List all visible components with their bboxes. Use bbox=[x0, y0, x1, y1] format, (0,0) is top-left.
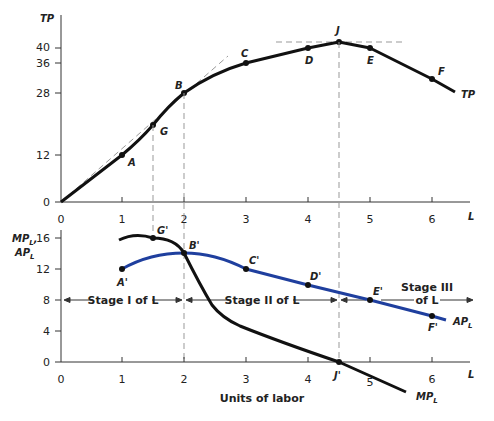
mp-x-tick-1: 1 bbox=[119, 373, 126, 386]
point-label-d-prime: D' bbox=[310, 271, 321, 282]
point-label-f: F bbox=[438, 66, 445, 77]
tp-curve bbox=[61, 42, 455, 202]
ap-curve bbox=[122, 253, 446, 320]
point-label-b: B bbox=[175, 80, 183, 91]
mp-axis-title-line1: MPL, bbox=[12, 233, 38, 247]
mp-y-tick-12: 12 bbox=[36, 263, 50, 276]
stage-3-label-line1: Stage III bbox=[401, 281, 453, 294]
tp-y-tick-36: 36 bbox=[36, 57, 50, 70]
tp-y-tick-28: 28 bbox=[36, 87, 50, 100]
point-label-e-prime: E' bbox=[373, 286, 383, 297]
x-axis-caption: Units of labor bbox=[220, 392, 305, 405]
tangent-ray bbox=[61, 56, 228, 202]
mp-curve-label: MPL bbox=[416, 391, 438, 405]
stage-3-label-line2: of L bbox=[415, 294, 438, 307]
mp-y-tick-8: 8 bbox=[43, 294, 50, 307]
mp-ap-panel: MPL, APL L 0 4 8 12 16 0 1 2 3 4 5 6 Uni bbox=[12, 225, 474, 405]
mp-x-ticks bbox=[122, 357, 432, 362]
mp-x-tick-0: 0 bbox=[58, 373, 65, 386]
point-label-g-prime: G' bbox=[157, 225, 168, 236]
tp-l-axis-title: L bbox=[468, 211, 474, 222]
mp-x-tick-4: 4 bbox=[305, 373, 312, 386]
point-label-a-prime: A' bbox=[116, 277, 128, 288]
mp-y-tick-4: 4 bbox=[43, 325, 50, 338]
point-label-j-prime: J' bbox=[332, 370, 341, 381]
point-label-e: E bbox=[367, 55, 374, 66]
tp-x-tick-4: 4 bbox=[305, 213, 312, 226]
mp-y-ticks bbox=[55, 238, 61, 362]
point-label-j: J bbox=[334, 25, 340, 36]
stage-1-label: Stage I of L bbox=[88, 294, 159, 307]
mp-curve bbox=[119, 235, 406, 392]
stage-2-label: Stage II of L bbox=[225, 294, 300, 307]
mp-x-tick-6: 6 bbox=[429, 373, 436, 386]
ap-curve-label: APL bbox=[452, 316, 473, 330]
tp-x-ticks bbox=[122, 197, 432, 202]
point-label-c: C bbox=[241, 48, 249, 59]
tp-x-tick-6: 6 bbox=[429, 213, 436, 226]
point-label-g: G bbox=[160, 126, 168, 137]
point-label-b-prime: B' bbox=[189, 240, 200, 251]
mp-axis-title-line2: APL bbox=[14, 247, 35, 261]
production-chart: TP L 0 12 28 36 40 0 1 2 3 4 5 6 bbox=[0, 0, 494, 421]
tp-y-tick-40: 40 bbox=[36, 41, 50, 54]
tp-y-tick-0: 0 bbox=[43, 196, 50, 209]
tp-panel: TP L 0 12 28 36 40 0 1 2 3 4 5 6 bbox=[36, 13, 476, 226]
mp-x-tick-2: 2 bbox=[181, 373, 188, 386]
mp-l-axis-title: L bbox=[468, 369, 474, 380]
point-label-f-prime: F' bbox=[428, 322, 438, 333]
tp-y-ticks bbox=[55, 48, 61, 202]
tp-x-tick-1: 1 bbox=[119, 213, 126, 226]
tp-x-tick-3: 3 bbox=[243, 213, 250, 226]
tp-curve-label: TP bbox=[461, 89, 476, 100]
point-label-a: A bbox=[127, 157, 136, 168]
mp-y-tick-0: 0 bbox=[43, 356, 50, 369]
point-label-d: D bbox=[305, 55, 313, 66]
mp-y-tick-16: 16 bbox=[36, 232, 50, 245]
point-label-c-prime: C' bbox=[249, 255, 259, 266]
tp-y-tick-12: 12 bbox=[36, 149, 50, 162]
tp-x-tick-0: 0 bbox=[58, 213, 65, 226]
tp-axis-title: TP bbox=[40, 13, 55, 24]
mp-x-tick-3: 3 bbox=[243, 373, 250, 386]
tp-x-tick-5: 5 bbox=[367, 213, 374, 226]
